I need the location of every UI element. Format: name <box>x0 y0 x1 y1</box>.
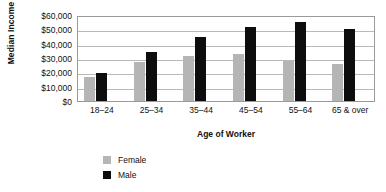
y-axis-title: Median Income <box>6 0 16 78</box>
bar-group <box>326 17 376 101</box>
y-axis-tick-label: $40,000 <box>18 40 72 49</box>
plot-area <box>77 16 375 102</box>
bar-male <box>146 52 157 101</box>
legend-label: Female <box>118 155 146 165</box>
bar-male <box>195 37 206 101</box>
y-axis-tick-label: $60,000 <box>18 12 72 21</box>
bar-female <box>233 54 244 101</box>
x-axis-tick-label: 35–44 <box>176 105 226 116</box>
x-axis-tick-label: 65 & over <box>325 105 375 116</box>
bar-female <box>84 77 95 101</box>
legend-label: Male <box>118 170 136 180</box>
x-axis-tick-label: 55–64 <box>276 105 326 116</box>
x-axis-tick-label: 25–34 <box>127 105 177 116</box>
bar-female <box>283 61 294 101</box>
x-axis-tick-labels: 18–2425–3435–4445–5455–6465 & over <box>77 105 375 131</box>
y-axis-tick-label: $20,000 <box>18 69 72 78</box>
y-axis-tick-label: $50,000 <box>18 26 72 35</box>
y-axis-tick-label: $10,000 <box>18 83 72 92</box>
bar-chart: Median Income $0$10,000$20,000$30,000$40… <box>0 0 386 192</box>
bar-group <box>78 17 128 101</box>
bar-male <box>295 22 306 101</box>
x-axis-title: Age of Worker <box>77 129 375 139</box>
y-axis-tick-label: $30,000 <box>18 55 72 64</box>
legend: FemaleMale <box>103 152 146 182</box>
legend-swatch-icon <box>103 156 111 164</box>
bar-group <box>227 17 277 101</box>
x-axis-tick-label: 18–24 <box>77 105 127 116</box>
y-axis-tick-labels: $0$10,000$20,000$30,000$40,000$50,000$60… <box>20 16 74 102</box>
legend-item: Female <box>103 152 146 167</box>
legend-swatch-icon <box>103 171 111 179</box>
y-axis-tick-label: $0 <box>18 98 72 107</box>
bar-male <box>245 27 256 101</box>
bar-female <box>134 62 145 101</box>
legend-item: Male <box>103 167 146 182</box>
bars-layer <box>78 17 374 101</box>
bar-group <box>177 17 227 101</box>
bar-group <box>277 17 327 101</box>
bar-male <box>96 73 107 101</box>
bar-female <box>183 56 194 101</box>
x-axis-tick-label: 45–54 <box>226 105 276 116</box>
bar-female <box>332 64 343 101</box>
bar-male <box>344 29 355 101</box>
bar-group <box>128 17 178 101</box>
